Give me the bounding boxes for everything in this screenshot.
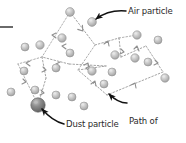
air-particle-highlight [37, 42, 40, 44]
air-particle [144, 58, 152, 66]
air-particle-highlight [54, 66, 56, 68]
air-particle [88, 18, 97, 27]
air-particle [100, 80, 108, 88]
dust-particle-leader [42, 109, 64, 124]
path-label-line1: Path of [129, 116, 180, 126]
air-particle [52, 64, 60, 72]
air-particle [31, 86, 39, 94]
air-particle [21, 43, 29, 51]
air-particle-highlight [162, 75, 165, 77]
air-particle-highlight [112, 52, 115, 54]
air-particle [131, 54, 139, 62]
air-particles [7, 8, 169, 110]
air-particle-highlight [89, 68, 92, 70]
air-particle [68, 93, 76, 101]
air-particle [161, 74, 169, 82]
air-particle-highlight [22, 69, 24, 71]
air-particle [108, 68, 116, 76]
air-particle-label: Air particle [128, 6, 173, 16]
air-particle-highlight [9, 90, 11, 92]
air-particle-highlight [67, 9, 70, 11]
dust-particle-highlight [34, 101, 38, 104]
air-particle-highlight [110, 70, 112, 72]
air-particle [66, 49, 74, 57]
air-particle-highlight [59, 35, 62, 37]
air-particle-highlight [68, 51, 70, 53]
air-particle-highlight [156, 38, 158, 40]
air-particle-highlight [54, 93, 56, 95]
air-particle [20, 67, 28, 75]
air-particle [36, 41, 44, 49]
air-particle [88, 67, 96, 75]
dust-particle-label: Dust particle [66, 119, 119, 129]
air-particle-highlight [70, 95, 72, 97]
air-particle [58, 34, 66, 42]
air-particle [52, 91, 60, 99]
air-particle [80, 102, 88, 110]
air-particle-highlight [132, 55, 135, 57]
air-particle-highlight [102, 82, 104, 84]
air-particle [133, 31, 141, 39]
air-particle-highlight [89, 19, 92, 21]
air-particle-highlight [146, 60, 148, 62]
brownian-motion-figure: Air particle Path of dust particle Dust … [0, 0, 186, 143]
air-particle [66, 8, 75, 17]
air-particle-highlight [82, 104, 84, 106]
air-particle-highlight [134, 32, 137, 34]
air-particle [111, 51, 119, 59]
air-particle-highlight [33, 88, 35, 90]
air-particle [7, 88, 15, 96]
air-particle-leader [96, 11, 126, 19]
air-particle [154, 36, 162, 44]
air-particle-highlight [23, 45, 25, 47]
path-label: Path of dust particle [129, 96, 180, 143]
path-leader [109, 94, 127, 103]
